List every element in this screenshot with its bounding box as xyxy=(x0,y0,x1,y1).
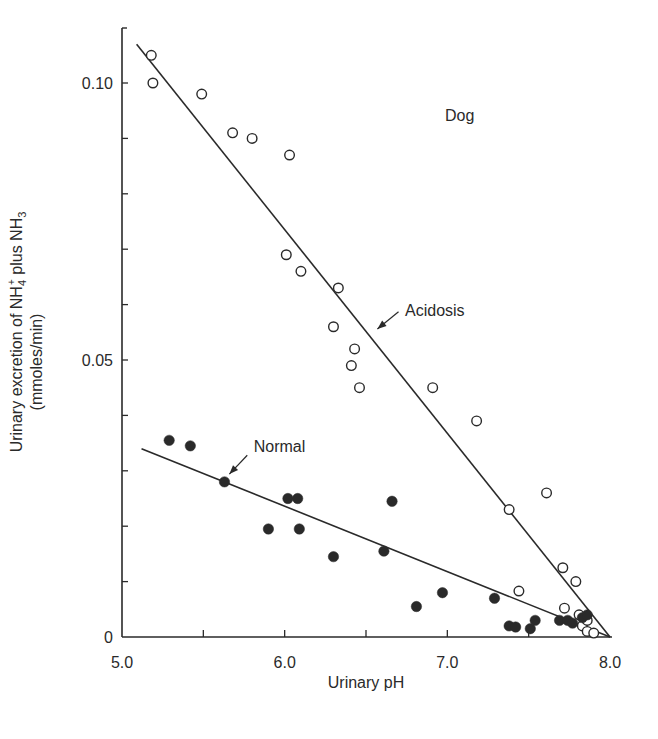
normal-point-filled xyxy=(328,551,338,561)
normal-point-filled xyxy=(510,622,520,632)
normal-point-filled xyxy=(567,618,577,628)
acidosis-point-open xyxy=(350,344,360,354)
acidosis-point-open xyxy=(148,78,158,88)
acidosis-point-open xyxy=(355,383,365,393)
acidosis-point-open xyxy=(472,416,482,426)
y-axis-label-line1: Urinary excretion of NH4+ plus NH3 xyxy=(6,212,28,453)
acidosis-point-open xyxy=(285,150,295,160)
acidosis-point-open xyxy=(281,250,291,260)
normal-fit-line xyxy=(142,449,610,637)
y-axis-label: Urinary excretion of NH4+ plus NH3 (mmol… xyxy=(6,212,45,453)
normal-point-filled xyxy=(489,593,499,603)
acidosis-point-open xyxy=(296,267,306,277)
acidosis-point-open xyxy=(146,51,156,61)
chart-annotation-title: Dog xyxy=(445,107,474,124)
acidosis-point-open xyxy=(329,322,339,332)
normal-point-filled xyxy=(263,524,273,534)
normal-point-filled xyxy=(283,493,293,503)
scatter-chart: 00.050.105.06.07.08.0 AcidosisNormal Dog… xyxy=(0,0,658,739)
normal-point-filled xyxy=(582,610,592,620)
y-axis-label-line2: (mmoles/min) xyxy=(28,314,45,411)
acidosis-point-open xyxy=(558,563,568,573)
x-tick-label: 6.0 xyxy=(274,654,296,671)
acidosis-series-label: Acidosis xyxy=(405,302,465,319)
x-axis-label: Urinary pH xyxy=(328,674,404,691)
normal-point-filled xyxy=(292,493,302,503)
y-tick-label: 0.05 xyxy=(82,352,113,369)
y-tick-label: 0 xyxy=(104,629,113,646)
normal-point-filled xyxy=(437,587,447,597)
normal-point-filled xyxy=(379,546,389,556)
x-tick-label: 5.0 xyxy=(111,654,133,671)
acidosis-point-open xyxy=(334,283,344,293)
x-tick-label: 8.0 xyxy=(599,654,621,671)
acidosis-point-open xyxy=(571,577,581,587)
acidosis-point-open xyxy=(504,505,514,515)
acidosis-point-open xyxy=(542,488,552,498)
acidosis-point-open xyxy=(347,361,357,371)
data-points xyxy=(146,51,598,638)
normal-point-filled xyxy=(294,524,304,534)
normal-series-label: Normal xyxy=(254,438,306,455)
acidosis-point-open xyxy=(514,586,524,596)
acidosis-point-open xyxy=(197,89,207,99)
fit-lines xyxy=(137,44,610,637)
acidosis-point-open xyxy=(589,628,599,638)
acidosis-fit-line xyxy=(137,44,610,637)
normal-point-filled xyxy=(164,435,174,445)
acidosis-point-open xyxy=(560,603,570,613)
normal-point-filled xyxy=(530,615,540,625)
normal-point-filled xyxy=(219,477,229,487)
acidosis-point-open xyxy=(247,134,257,144)
acidosis-point-open xyxy=(228,128,238,138)
x-tick-label: 7.0 xyxy=(436,654,458,671)
y-tick-label: 0.10 xyxy=(82,75,113,92)
acidosis-point-open xyxy=(428,383,438,393)
normal-point-filled xyxy=(411,601,421,611)
normal-point-filled xyxy=(387,496,397,506)
normal-point-filled xyxy=(185,441,195,451)
acidosis-arrow-icon xyxy=(377,321,386,329)
